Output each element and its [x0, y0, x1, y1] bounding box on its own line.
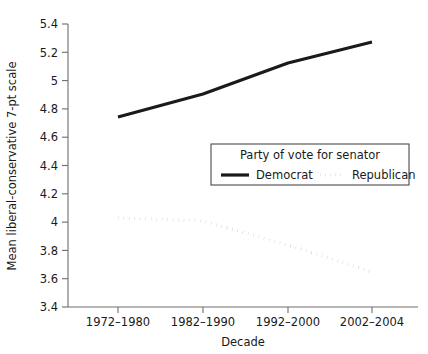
x-tick-label: 1992–2000: [256, 315, 320, 329]
legend-title: Party of vote for senator: [240, 148, 380, 162]
legend-label-democrat: Democrat: [256, 168, 313, 182]
x-tick-label: 2002–2004: [340, 315, 404, 329]
y-tick-label: 5.2: [40, 46, 58, 60]
y-tick-label: 5: [51, 74, 58, 88]
y-axis-title: Mean liberal-conservative 7-pt scale: [5, 62, 19, 271]
y-tick-label: 3.4: [40, 300, 58, 314]
y-tick-label: 4: [51, 215, 58, 229]
y-tick-label: 4.4: [40, 159, 58, 173]
chart-legend: Party of vote for senator Democrat Repub…: [211, 144, 416, 185]
legend-label-republican: Republican: [352, 168, 416, 182]
y-tick-label: 3.8: [40, 244, 58, 258]
y-tick-label: 4.2: [40, 187, 58, 201]
x-axis-title: Decade: [221, 335, 265, 349]
line-chart: 5.4 5.2 5 4.8 4.6 4.4 4.2 4 3.8 3.6 3.4 …: [0, 0, 428, 354]
y-tick-label: 4.6: [40, 130, 58, 144]
y-tick-label: 3.6: [40, 272, 58, 286]
y-tick-label: 4.8: [40, 102, 58, 116]
x-tick-label: 1972–1980: [86, 315, 150, 329]
x-tick-label: 1982–1990: [171, 315, 235, 329]
chart-container: 5.4 5.2 5 4.8 4.6 4.4 4.2 4 3.8 3.6 3.4 …: [0, 0, 428, 354]
y-tick-label: 5.4: [40, 17, 58, 31]
